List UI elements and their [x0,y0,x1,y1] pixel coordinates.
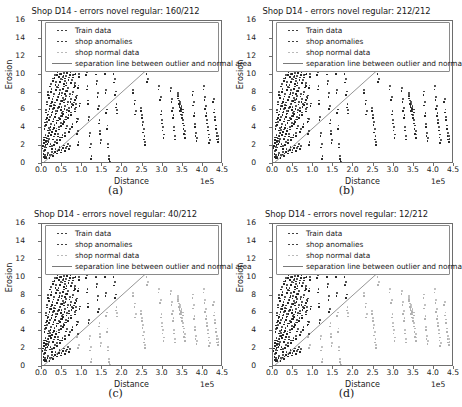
data-point [277,101,279,103]
x-tick-label: 0.0 [30,369,52,377]
data-point [98,308,100,310]
data-point [73,277,75,279]
x-tick-mark [433,366,434,369]
legend-dot-icon [292,255,294,257]
data-point [415,340,417,342]
y-tick-label: 6 [9,105,25,113]
data-point [52,358,54,360]
data-point [402,98,404,100]
data-point [305,85,307,87]
data-point [373,324,375,326]
data-point [293,316,295,318]
data-point [55,81,57,83]
data-point [392,123,394,125]
data-point [298,117,300,119]
legend-dot-icon [65,233,67,235]
legend-dot-icon [296,52,298,54]
data-point [45,327,47,329]
subplot-d: Shop D14 - errors novel regular: 12/2120… [231,203,462,406]
data-point [292,115,294,117]
data-point [363,295,365,297]
legend-dot-icon [292,52,294,54]
data-point [326,276,328,278]
data-point [286,316,288,318]
data-point [402,313,404,315]
data-point [87,306,89,308]
data-point [47,316,49,318]
data-point [163,137,165,139]
data-point [293,123,295,125]
data-point [285,133,287,135]
data-point [45,312,47,314]
x-tick-label: 3.0 [151,166,173,174]
data-point [278,152,280,154]
data-point [214,319,216,321]
data-point [363,89,365,91]
data-point [345,78,347,80]
data-point [64,105,66,107]
data-point [300,93,302,95]
data-point [278,355,280,357]
y-tick-label: 2 [240,344,256,352]
data-point [104,73,106,75]
data-point [281,286,283,288]
data-point [436,105,438,107]
legend-label: Train data [75,229,111,238]
legend-dot-swatch [49,244,75,246]
data-point [65,350,67,352]
data-point [217,344,219,346]
data-point [371,107,373,109]
data-point [305,108,307,110]
data-point [47,114,49,116]
legend-dot-icon [65,52,67,54]
data-point [66,72,68,74]
data-point [275,352,277,354]
data-point [304,74,306,76]
data-point [443,101,445,103]
data-point [56,142,58,144]
data-point [283,358,285,360]
x-tick-label: 1.5 [90,166,112,174]
data-point [172,310,174,312]
x-tick-mark [453,163,454,166]
data-point [299,334,301,336]
legend: Train datashop anomaliesshop normal data… [276,225,450,275]
y-axis-label: Erosion [236,253,245,303]
legend-item: separation line between outlier and norm… [280,261,446,272]
data-point [60,109,62,111]
data-point [278,91,280,93]
x-tick-label: 4.0 [422,166,444,174]
data-point [62,147,64,149]
data-point [58,76,60,78]
legend-dot-icon [292,233,294,235]
data-point [147,78,149,80]
x-tick-mark [121,163,122,166]
legend-dot-icon [65,41,67,43]
data-point [62,350,64,352]
data-point [295,353,297,355]
data-point [292,92,294,94]
data-point [403,117,405,119]
legend-item: Train data [280,228,446,239]
legend-line-swatch [49,266,75,267]
data-point [132,92,134,94]
data-point [281,123,283,125]
data-point [279,138,281,140]
x-tick-label: 3.5 [171,166,193,174]
data-point [159,302,161,304]
data-point [73,74,75,76]
legend-dot-icon [288,244,290,246]
legend-dot-icon [288,41,290,43]
data-point [48,341,50,343]
x-tick-label: 3.0 [382,166,404,174]
x-tick-label: 3.0 [151,369,173,377]
data-point [339,358,341,360]
data-point [321,158,323,160]
data-point [435,299,437,301]
data-point [65,278,67,280]
y-tick-label: 6 [9,308,25,316]
data-point [161,123,163,125]
data-point [295,105,297,107]
data-point [437,325,439,327]
data-point [66,275,68,277]
